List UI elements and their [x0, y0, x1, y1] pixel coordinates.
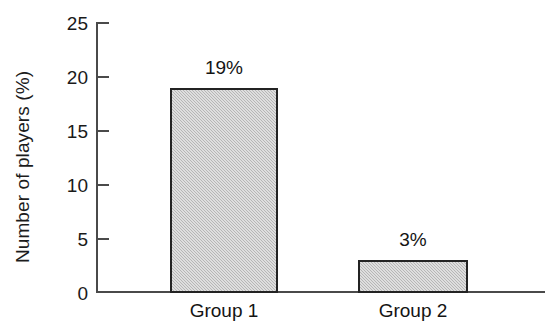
y-axis-tick-label-25: 25 [48, 14, 88, 33]
y-axis-tick-10 [98, 184, 109, 186]
x-axis-line [96, 291, 545, 293]
y-axis-tick-label-10: 10 [48, 176, 88, 195]
y-axis-line [96, 22, 98, 293]
y-axis-tick-20 [98, 76, 109, 78]
bar-value-label-group-1: 19% [184, 58, 264, 77]
x-axis-label-group-1: Group 1 [170, 301, 278, 320]
y-axis-tick-label-20: 20 [48, 68, 88, 87]
bar-value-label-group-2: 3% [373, 230, 453, 249]
bar-chart: Number of players (%) 25 20 15 10 5 0 19… [0, 0, 555, 334]
x-axis-label-group-2: Group 2 [358, 301, 468, 320]
y-axis-tick-5 [98, 238, 109, 240]
y-axis-tick-label-0: 0 [48, 284, 88, 303]
y-axis-tick-label-15: 15 [48, 122, 88, 141]
y-axis-tick-label-5: 5 [48, 230, 88, 249]
y-axis-tick-25 [98, 22, 109, 24]
bar-group-2 [358, 260, 468, 293]
bar-group-1 [170, 88, 278, 293]
y-axis-title: Number of players (%) [0, 0, 46, 334]
y-axis-tick-15 [98, 130, 109, 132]
